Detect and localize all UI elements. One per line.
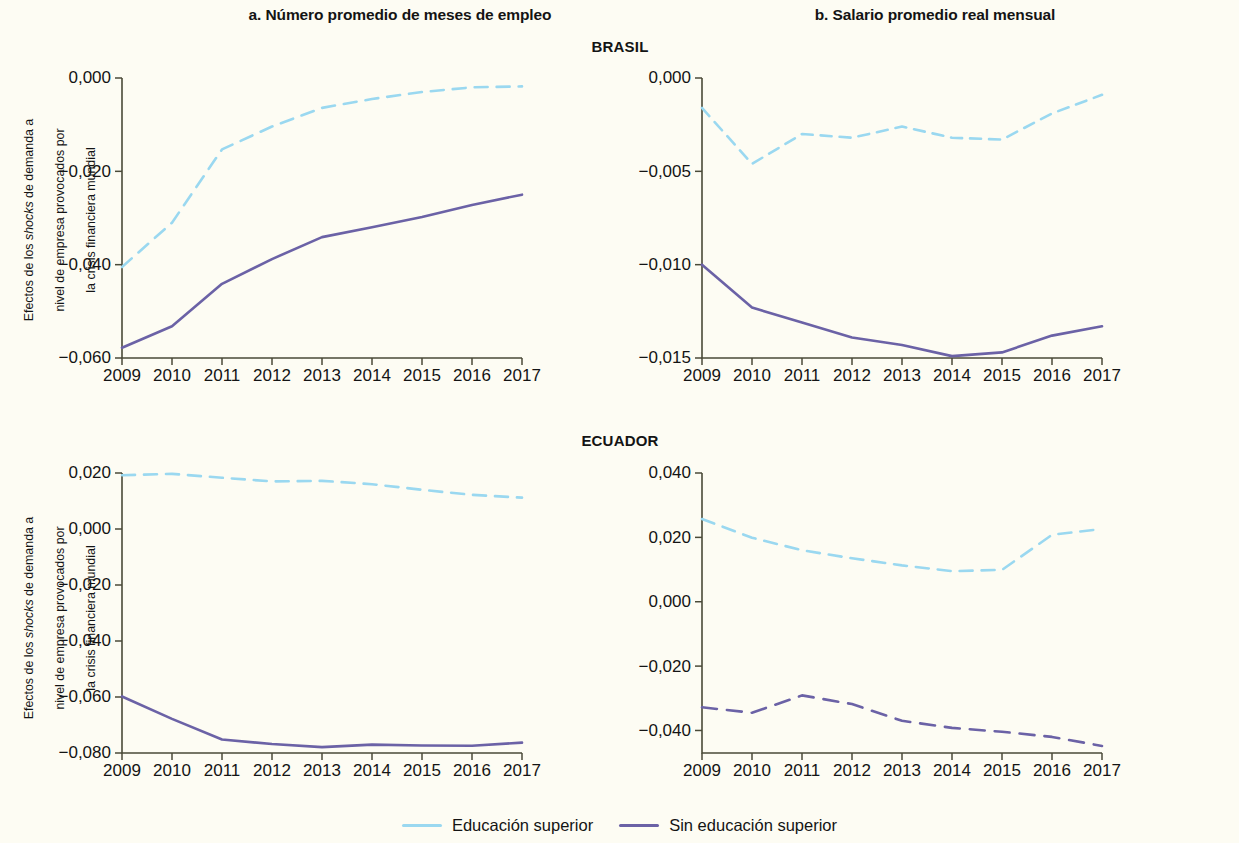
x-tick-label: 2012 xyxy=(833,761,871,780)
legend-entry-sin-educacion-superior: Sin educación superior xyxy=(619,816,837,835)
axis-lines xyxy=(122,473,522,753)
x-tick-label: 2015 xyxy=(983,366,1021,385)
figure-root: a. Número promedio de meses de empleo b.… xyxy=(0,0,1239,843)
x-tick-label: 2010 xyxy=(153,366,191,385)
x-tick-label: 2012 xyxy=(253,366,291,385)
y-tick-label: −0,060 xyxy=(59,348,111,367)
legend-swatch-educacion-superior xyxy=(402,824,442,827)
x-tick-label: 2014 xyxy=(353,366,391,385)
series-line-educacion-superior xyxy=(122,86,522,267)
x-tick-label: 2012 xyxy=(833,366,871,385)
y-tick-label: −0,020 xyxy=(59,162,111,181)
column-title-b: b. Salario promedio real mensual xyxy=(700,6,1170,24)
x-tick-label: 2011 xyxy=(784,366,821,385)
legend-label-sin-educacion-superior: Sin educación superior xyxy=(669,816,837,835)
legend-label-educacion-superior: Educación superior xyxy=(452,816,593,835)
x-tick-label: 2017 xyxy=(503,761,541,780)
x-tick-label: 2016 xyxy=(1033,761,1071,780)
x-tick-label: 2017 xyxy=(503,366,541,385)
x-tick-label: 2013 xyxy=(883,366,921,385)
y-tick-label: −0,015 xyxy=(639,348,691,367)
axis-lines xyxy=(122,78,522,358)
x-tick-label: 2017 xyxy=(1083,366,1121,385)
x-tick-label: 2011 xyxy=(204,366,241,385)
y-tick-label: −0,010 xyxy=(639,255,691,274)
y-axis-label-line1: Efectos de los shocks de demanda a xyxy=(22,119,36,322)
x-tick-label: 2013 xyxy=(883,761,921,780)
x-tick-label: 2009 xyxy=(103,366,141,385)
y-tick-label: 0,000 xyxy=(68,519,111,538)
legend-entry-educacion-superior: Educación superior xyxy=(402,816,593,835)
legend-swatch-sin-educacion-superior xyxy=(619,824,659,827)
x-tick-label: 2013 xyxy=(303,761,341,780)
y-tick-label: −0,040 xyxy=(639,721,691,740)
x-tick-label: 2010 xyxy=(733,366,771,385)
x-tick-label: 2011 xyxy=(784,761,821,780)
series-line-sin-educacion-superior xyxy=(702,265,1102,356)
x-tick-label: 2016 xyxy=(453,366,491,385)
y-tick-label: −0,020 xyxy=(59,575,111,594)
chart-panel-ecuador-salario: 0,0400,0200,000−0,020−0,0402009201020112… xyxy=(640,455,1110,795)
y-tick-label: 0,000 xyxy=(648,68,691,87)
x-tick-label: 2010 xyxy=(733,761,771,780)
x-tick-label: 2011 xyxy=(204,761,241,780)
chart-svg-ecuador-salario: 0,0400,0200,000−0,020−0,0402009201020112… xyxy=(640,455,1110,795)
y-tick-label: 0,020 xyxy=(648,528,691,547)
series-line-sin-educacion-superior xyxy=(122,195,522,348)
x-tick-label: 2014 xyxy=(933,366,971,385)
y-tick-label: 0,000 xyxy=(68,68,111,87)
y-tick-label: −0,080 xyxy=(59,743,111,762)
series-line-sin-educacion-superior xyxy=(702,695,1102,746)
series-line-educacion-superior xyxy=(702,519,1102,571)
x-tick-label: 2014 xyxy=(933,761,971,780)
axis-lines xyxy=(702,473,1102,753)
y-axis-label-line1: Efectos de los shocks de demanda a xyxy=(22,517,36,720)
y-tick-label: 0,020 xyxy=(68,463,111,482)
x-tick-label: 2015 xyxy=(983,761,1021,780)
y-tick-label: −0,060 xyxy=(59,687,111,706)
chart-panel-brasil-salario: 0,000−0,005−0,010−0,01520092010201120122… xyxy=(640,60,1110,400)
y-tick-label: 0,040 xyxy=(648,463,691,482)
chart-svg-brasil-salario: 0,000−0,005−0,010−0,01520092010201120122… xyxy=(640,60,1110,400)
series-line-educacion-superior xyxy=(122,474,522,498)
x-tick-label: 2014 xyxy=(353,761,391,780)
x-tick-label: 2009 xyxy=(683,761,721,780)
legend: Educación superior Sin educación superio… xyxy=(0,816,1239,835)
x-tick-label: 2015 xyxy=(403,366,441,385)
country-title-ecuador: ECUADOR xyxy=(520,432,720,449)
x-tick-label: 2016 xyxy=(453,761,491,780)
y-tick-label: −0,005 xyxy=(639,162,691,181)
x-tick-label: 2009 xyxy=(103,761,141,780)
x-tick-label: 2017 xyxy=(1083,761,1121,780)
y-tick-label: −0,020 xyxy=(639,657,691,676)
x-tick-label: 2009 xyxy=(683,366,721,385)
chart-svg-brasil-empleo: 0,000−0,020−0,040−0,06020092010201120122… xyxy=(60,60,530,400)
y-tick-label: 0,000 xyxy=(648,592,691,611)
y-tick-label: −0,040 xyxy=(59,631,111,650)
x-tick-label: 2016 xyxy=(1033,366,1071,385)
x-tick-label: 2010 xyxy=(153,761,191,780)
country-title-brasil: BRASIL xyxy=(520,38,720,55)
chart-panel-ecuador-empleo: 0,0200,000−0,020−0,040−0,060−0,080200920… xyxy=(60,455,530,795)
column-title-a: a. Número promedio de meses de empleo xyxy=(160,6,640,24)
series-line-educacion-superior xyxy=(702,95,1102,164)
y-tick-label: −0,040 xyxy=(59,255,111,274)
x-tick-label: 2012 xyxy=(253,761,291,780)
series-line-sin-educacion-superior xyxy=(122,696,522,747)
chart-svg-ecuador-empleo: 0,0200,000−0,020−0,040−0,060−0,080200920… xyxy=(60,455,530,795)
chart-panel-brasil-empleo: 0,000−0,020−0,040−0,06020092010201120122… xyxy=(60,60,530,400)
x-tick-label: 2013 xyxy=(303,366,341,385)
x-tick-label: 2015 xyxy=(403,761,441,780)
